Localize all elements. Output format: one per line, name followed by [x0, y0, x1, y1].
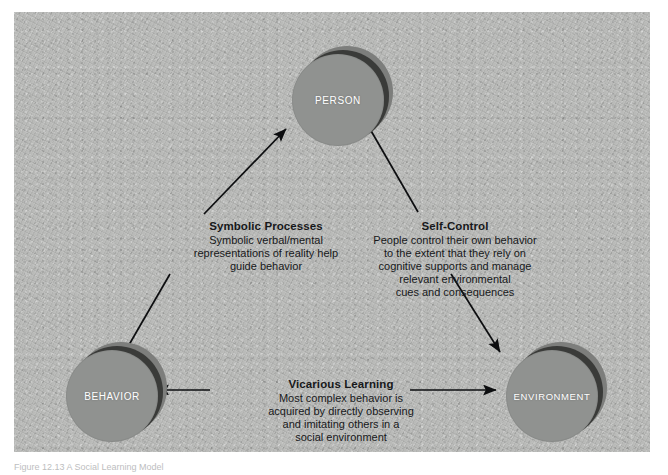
annotation-self-control-line-3: cognitive supports and manage	[338, 260, 572, 273]
annotation-self-control-line-5: cues and consequences	[338, 286, 572, 299]
diagram-panel: PERSON BEHAVIOR ENVIRONMENT Symbolic Pro…	[14, 12, 650, 452]
node-behavior: BEHAVIOR	[66, 350, 158, 442]
annotation-self-control-title: Self-Control	[338, 220, 572, 233]
annotation-vicarious-title: Vicarious Learning	[212, 378, 470, 391]
annotation-self-control-line-2: to the extent that they rely on	[338, 247, 572, 260]
annotation-self-control: Self-Control People control their own be…	[338, 220, 572, 299]
node-person: PERSON	[292, 54, 384, 146]
annotation-self-control-line-1: People control their own behavior	[338, 234, 572, 247]
annotation-vicarious-line-4: social environment	[212, 431, 470, 444]
annotation-vicarious-line-2: acquired by directly observing	[212, 405, 470, 418]
annotation-vicarious-line-3: and imitating others in a	[212, 418, 470, 431]
node-environment-label: ENVIRONMENT	[506, 350, 598, 442]
node-person-label: PERSON	[292, 54, 384, 146]
annotation-self-control-line-4: relevant environmental	[338, 273, 572, 286]
node-behavior-label: BEHAVIOR	[66, 350, 158, 442]
figure-root: PERSON BEHAVIOR ENVIRONMENT Symbolic Pro…	[0, 0, 668, 475]
annotation-vicarious-line-1: Most complex behavior is	[212, 392, 470, 405]
annotation-vicarious-learning: Vicarious Learning Most complex behavior…	[212, 378, 470, 444]
figure-caption: Figure 12.13 A Social Learning Model	[14, 462, 514, 473]
node-environment: ENVIRONMENT	[506, 350, 598, 442]
